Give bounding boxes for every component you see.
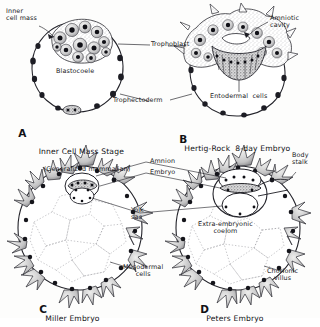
label-entodermal-cells: Entodermal cells: [210, 93, 267, 100]
label-trophectoderm: Trophectoderm: [113, 97, 163, 104]
label-inner-cell-mass: Innercell mass: [6, 8, 37, 22]
label-extra-embryonic-coelom: Extra-embryoniccoelom: [198, 221, 253, 235]
label-amniotic-cavity-line2: cavity: [270, 21, 290, 29]
label-body-stalk-line2: stalk: [292, 158, 308, 166]
caption-c-line1: Miller Embryo: [45, 314, 99, 323]
label-blastocoele: Blastocoele: [56, 68, 94, 75]
inner-cell-mass-cluster: [52, 19, 113, 63]
caption-panel-d: D Peters Embryo: [190, 296, 264, 327]
polar-cell-cluster: [63, 105, 81, 114]
caption-panel-c: C Miller Embryo: [29, 296, 100, 327]
caption-panel-b: B Hertig-Rock 8-day Embryo: [169, 126, 290, 162]
label-extra-embryonic-coelom-line2: coelom: [213, 227, 237, 235]
label-amniotic-cavity: Amnioticcavity: [270, 15, 299, 29]
caption-a-line1: Inner Cell Mass Stage: [39, 147, 124, 156]
label-yolk-sac: Yolksac: [131, 207, 144, 221]
label-trophoblast: Trophoblast: [151, 41, 189, 48]
panel-letter-c: C: [39, 303, 47, 315]
panel-letter-a: A: [18, 127, 26, 139]
label-embryo: Embryo: [150, 169, 175, 176]
panel-letter-d: D: [200, 303, 209, 315]
panel-letter-b: B: [179, 133, 187, 145]
label-chorionic-villus: Chorionicvillus: [267, 268, 298, 282]
caption-b-line1: Hertig-Rock 8-day Embryo: [184, 144, 290, 153]
label-yolk-sac-line2: sac: [131, 213, 142, 221]
label-mesodermal-cells: Mesodermalcells: [123, 264, 163, 278]
caption-d-line1: Peters Embryo: [206, 314, 263, 323]
caption-a-line2: (Generalized mammalian): [44, 165, 131, 174]
label-chorionic-villus-line2: villus: [274, 274, 291, 282]
label-body-stalk: Bodystalk: [292, 152, 309, 166]
label-inner-cell-mass-line2: cell mass: [6, 14, 37, 22]
label-mesodermal-cells-line2: cells: [136, 270, 151, 278]
caption-panel-a: A Inner Cell Mass Stage (Generalized mam…: [8, 120, 130, 191]
